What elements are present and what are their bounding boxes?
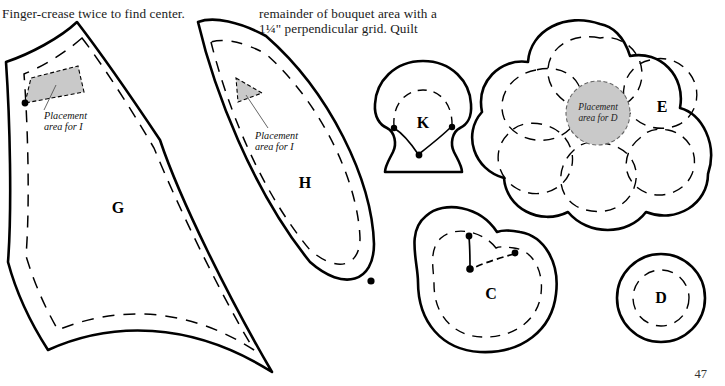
page-number: 47 [695,367,708,382]
placement-caption-e-line-1: Placement [578,102,618,113]
piece-e-group [472,20,711,230]
piece-k-dot-right [449,124,455,130]
piece-k-dot-bottom [416,152,423,159]
pattern-template-page: 1. From muslin, cut 1 (54") square. Fing… [0,0,725,386]
placement-caption-e: Placement area for D [578,102,618,123]
placement-caption-g: Placement area for I [44,110,87,133]
placement-caption-h: Placement area for I [255,130,298,153]
placement-caption-h-line-1: Placement [255,130,298,141]
piece-c-group [414,207,556,352]
piece-k-dot-left [391,125,397,131]
piece-g-registration-dot [22,100,29,107]
piece-label-e: E [657,98,668,116]
piece-label-c: C [485,285,497,303]
piece-label-d: D [655,289,667,307]
piece-c-dot-top [466,233,473,240]
piece-label-g: G [112,199,124,217]
pattern-pieces-artwork [0,0,725,386]
placement-caption-g-line-1: Placement [44,110,87,121]
piece-c-stem-left [469,237,470,268]
placement-caption-h-line-2: area for I [255,141,298,152]
piece-label-h: H [299,174,311,192]
piece-h-registration-dot [367,277,374,284]
piece-c-dot-center [466,265,474,273]
placement-caption-g-line-2: area for I [44,121,87,132]
piece-c-outline [414,207,556,352]
placement-caption-e-line-2: area for D [578,113,618,124]
piece-c-dot-right [512,250,519,257]
piece-label-k: K [417,114,429,132]
